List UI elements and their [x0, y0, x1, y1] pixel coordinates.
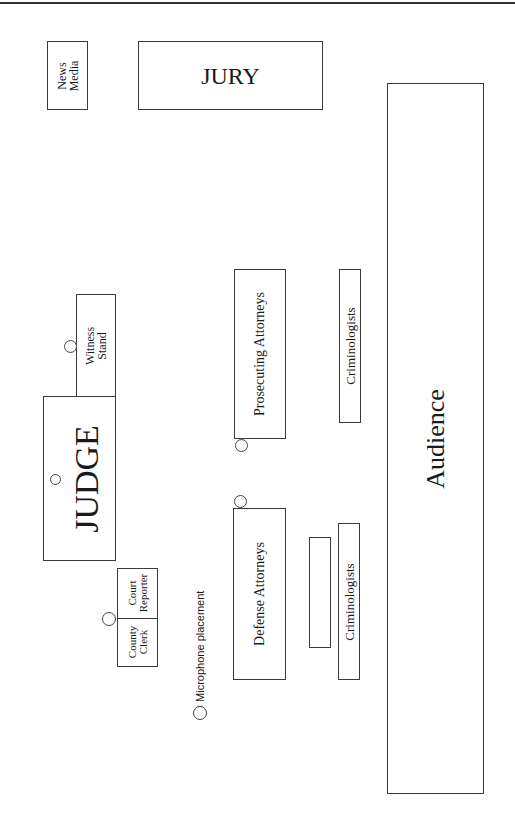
unlabeled-table	[309, 537, 331, 648]
court-reporter-label: Court Reporter	[127, 574, 149, 612]
news-media-area: News Media	[47, 41, 88, 110]
jury-label: JURY	[139, 62, 322, 89]
clerk-reporter-area: Court Reporter County Clerk	[117, 568, 158, 667]
judge-label: JUDGE	[70, 425, 104, 533]
criminologists-lower-label: Criminologists	[343, 563, 356, 640]
prosecuting-attorneys-label: Prosecuting Attorneys	[253, 292, 267, 416]
microphone-icon-defense-attorneys	[234, 495, 247, 508]
audience-area: Audience	[387, 83, 484, 794]
criminologists-lower-area: Criminologists	[338, 523, 360, 680]
county-clerk-label: County Clerk	[127, 626, 149, 658]
news-media-label: News Media	[56, 60, 80, 91]
news-media-label-line1: News	[56, 60, 68, 91]
county-clerk-area: County Clerk	[118, 618, 157, 667]
microphone-icon-judge	[50, 474, 61, 485]
legend-text: = Microphone placement	[195, 591, 206, 712]
court-reporter-area: Court Reporter	[118, 569, 157, 618]
criminologists-upper-label: Criminologists	[344, 307, 357, 384]
page-top-rule	[0, 2, 515, 4]
witness-stand-label-line2: Stand	[96, 326, 108, 364]
microphone-icon-clerk-reporter	[102, 612, 116, 626]
microphone-icon-witness-stand	[64, 340, 77, 353]
microphone-icon-prosecuting-attorneys	[235, 439, 248, 452]
criminologists-upper-area: Criminologists	[339, 269, 361, 423]
witness-stand-area: Witness Stand	[76, 294, 116, 397]
jury-area: JURY	[138, 41, 323, 110]
defense-attorneys-table: Defense Attorneys	[233, 508, 286, 680]
county-clerk-label-line1: County	[127, 626, 138, 658]
news-media-label-line2: Media	[68, 60, 80, 91]
microphone-icon-legend	[193, 706, 207, 720]
defense-attorneys-label: Defense Attorneys	[253, 542, 267, 646]
court-reporter-label-line1: Court	[127, 574, 138, 612]
legend: = Microphone placement	[191, 594, 209, 708]
audience-label: Audience	[423, 389, 449, 489]
court-reporter-label-line2: Reporter	[138, 574, 149, 612]
county-clerk-label-line2: Clerk	[138, 626, 149, 658]
witness-stand-label: Witness Stand	[84, 326, 108, 364]
prosecuting-attorneys-table: Prosecuting Attorneys	[234, 269, 286, 439]
